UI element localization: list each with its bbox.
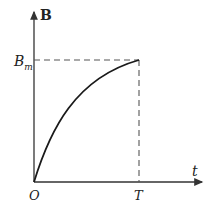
t-marker-label: T bbox=[134, 188, 144, 203]
b-t-graph: B t O T Bm bbox=[0, 0, 212, 213]
b-curve bbox=[34, 60, 139, 182]
bm-label: Bm bbox=[13, 53, 33, 72]
origin-label: O bbox=[29, 188, 40, 203]
x-axis-label: t bbox=[192, 163, 198, 179]
y-axis-label: B bbox=[40, 7, 52, 23]
